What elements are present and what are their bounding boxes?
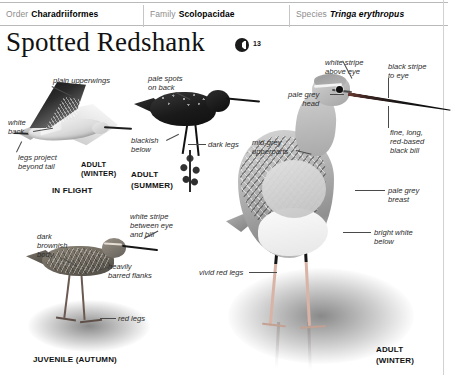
label-pale-grey-head: pale grey head [288,90,319,108]
label-dark-legs: dark legs [208,140,239,149]
label-bright-white-below: bright white below [374,228,413,246]
juvenile-shadow [28,300,150,352]
label-blackish-below: blackish below [131,136,158,154]
taxonomy-header: Order Charadriiformes Family Scolopacida… [0,2,448,26]
caption-in-flight: IN FLIGHT [52,186,92,195]
caption-flight-adult: ADULT [81,160,106,169]
caption-juvenile: JUVENILE (AUTUMN) [33,355,117,364]
species-rank-label: Species [296,9,327,19]
caption-main-adult: ADULT [376,345,403,354]
page-title: Spotted Redshank [6,27,205,58]
label-white-stripe-above-eye: white stripe above eye [325,58,363,76]
label-pale-grey-breast: pale grey breast [388,186,419,204]
order-name: Charadriiformes [31,9,98,19]
leader-red-legs [100,318,116,319]
summer-bill [226,98,260,103]
leader-black-stripe-to-eye [388,78,389,98]
main-grey-breast [262,160,326,218]
label-bill: fine, long, red-based black bill [390,128,424,156]
main-eye [336,86,343,93]
leader-pale-grey-breast [355,190,385,191]
family-rank-label: Family [150,9,176,19]
main-bill [348,92,451,112]
taxonomy-family: Family Scolopacidae [150,3,235,25]
summer-perch-vegetation [176,150,204,192]
label-black-stripe-to-eye: black stripe to eye [388,62,426,80]
taxonomy-order: Order Charadriiformes [6,3,98,25]
leader-vivid-red-legs [249,272,277,273]
label-pale-spots: pale spots on back [148,74,183,92]
caption-main-season: (WINTER) [376,356,414,365]
field-guide-page: Order Charadriiformes Family Scolopacida… [0,0,454,375]
label-white-back: white back [8,118,26,136]
juvenile-head [102,238,126,258]
leader-dark-legs [188,144,206,145]
leader-blackish-below [166,134,179,141]
caption-flight-winter: (WINTER) [81,169,116,178]
header-divider-2 [289,5,290,27]
leader-bill [388,106,389,128]
leader-pale-grey-head [330,94,344,95]
leader-bright-white-below [343,232,371,233]
juvenile-bill [122,245,158,252]
taxonomy-species: Species Tringa erythropus [296,3,404,25]
species-name: Tringa erythropus [330,9,404,19]
summer-head [206,90,230,112]
label-legs-project: legs project beyond tail [18,153,57,171]
label-white-stripe-eye-bill: white stripe between eye and bill [130,212,173,240]
family-name: Scolopacidae [179,9,235,19]
label-mid-grey-upperparts: mid-grey upperparts [252,138,288,156]
speaker-icon[interactable] [235,38,249,52]
leader-legs-project [16,141,22,152]
label-vivid-red-legs: vivid red legs [199,268,243,277]
audio-track-number: 13 [253,40,261,47]
label-dark-brownish-body: dark brownish body [37,232,67,260]
caption-summer-season: (SUMMER) [131,181,173,190]
caption-summer-adult: ADULT [131,170,158,179]
page-margin-rule [443,0,444,375]
label-red-legs: red legs [118,314,145,323]
label-plain-upperwings: plain upperwings [53,76,110,85]
header-divider-1 [143,5,144,27]
order-rank-label: Order [6,9,28,19]
label-heavily-barred-flanks: heavily barred flanks [108,262,152,280]
